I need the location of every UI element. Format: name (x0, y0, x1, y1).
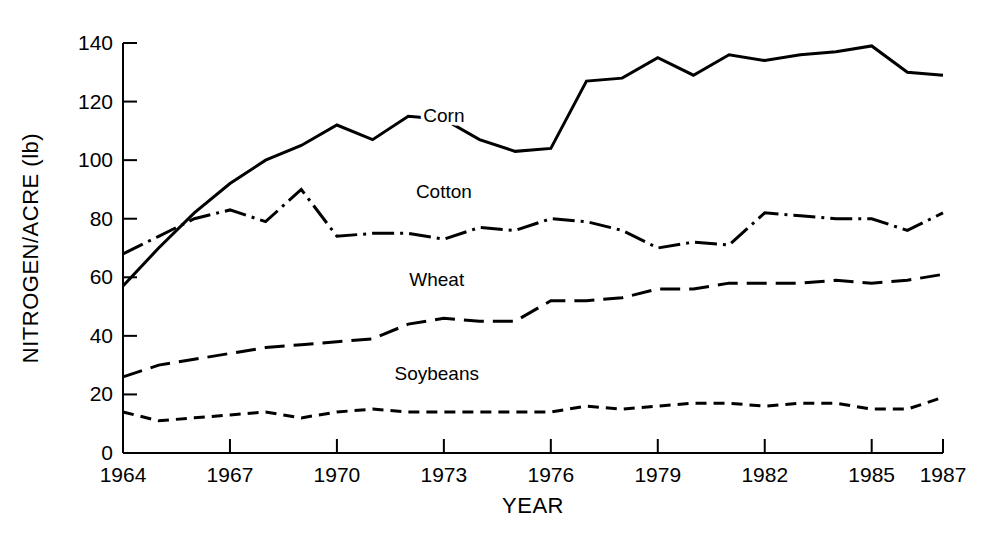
x-tick-label: 1970 (314, 463, 361, 486)
x-tick-label: 1982 (741, 463, 788, 486)
y-tick-label: 60 (90, 265, 113, 288)
x-axis-tick-labels: 196419671970197319761979198219851987 (100, 463, 967, 486)
x-tick-label: 1987 (920, 463, 967, 486)
series-line-corn (123, 46, 943, 286)
series-line-cotton (123, 189, 943, 253)
series-label-corn: Corn (423, 105, 464, 126)
chart-figure: 020406080100120140 196419671970197319761… (0, 0, 995, 550)
y-axis-title: NITROGEN/ACRE (lb) (18, 133, 43, 363)
y-tick-label: 80 (90, 207, 113, 230)
series-label-cotton: Cotton (416, 181, 472, 202)
y-tick-label: 40 (90, 324, 113, 347)
y-tick-label: 100 (78, 148, 113, 171)
x-axis-ticks (123, 439, 943, 453)
line-chart: 020406080100120140 196419671970197319761… (0, 0, 995, 550)
x-axis-title: YEAR (502, 493, 564, 518)
series-line-wheat (123, 274, 943, 377)
x-tick-label: 1979 (634, 463, 681, 486)
y-tick-label: 140 (78, 31, 113, 54)
x-tick-label: 1976 (527, 463, 574, 486)
series-label-soybeans: Soybeans (394, 363, 479, 384)
series-lines (123, 46, 943, 421)
x-tick-label: 1973 (421, 463, 468, 486)
y-tick-label: 20 (90, 382, 113, 405)
y-tick-label: 120 (78, 90, 113, 113)
x-tick-label: 1967 (207, 463, 254, 486)
series-inline-labels: CornCornCottonCottonWheatWheatSoybeansSo… (394, 105, 479, 384)
x-tick-label: 1964 (100, 463, 147, 486)
series-label-wheat: Wheat (409, 269, 465, 290)
series-line-soybeans (123, 397, 943, 420)
x-tick-label: 1985 (848, 463, 895, 486)
y-axis-tick-labels: 020406080100120140 (78, 31, 113, 464)
y-tick-label: 0 (101, 441, 113, 464)
